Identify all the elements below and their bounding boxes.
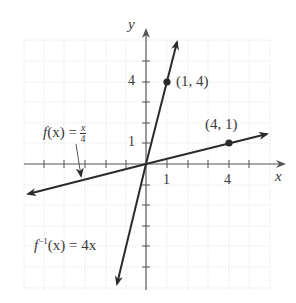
f-inverse-label: f−1(x) = 4x: [34, 236, 96, 254]
tick-label-y1: 1: [128, 134, 135, 150]
f-inverse-line-neg: [117, 164, 146, 284]
point-4-1: [225, 139, 232, 146]
f-fraction: x4: [80, 123, 86, 144]
tick-label-x4: 4: [224, 172, 231, 188]
f-line-neg: [28, 164, 146, 194]
f-function-label: f(x) =x4: [43, 123, 86, 144]
point-label-1-4: (1, 4): [176, 73, 209, 90]
f-label-pointer: [76, 144, 81, 176]
f-inverse-line: [146, 42, 177, 164]
tick-label-x1: 1: [163, 172, 170, 188]
point-label-4-1: (4, 1): [205, 116, 238, 133]
y-axis-label: y: [128, 16, 135, 33]
x-axis-label: x: [275, 168, 282, 185]
tick-label-y4: 4: [128, 73, 135, 89]
graph-canvas: [0, 0, 296, 303]
finv-rest: (x) = 4x: [48, 237, 96, 253]
f-denominator: 4: [80, 134, 86, 144]
point-1-4: [163, 78, 170, 85]
f-arg: (x) =: [47, 124, 77, 140]
finv-superscript: −1: [38, 236, 48, 246]
